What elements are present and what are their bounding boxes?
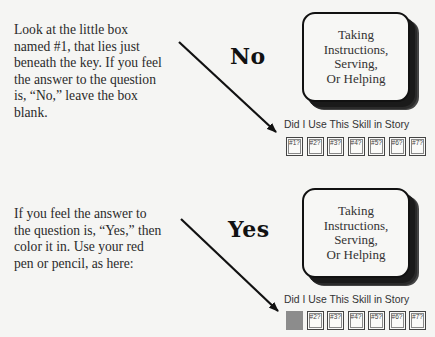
skill-line: Serving, — [324, 57, 389, 72]
story-box-2[interactable]: #2? — [307, 311, 324, 330]
skill-card-no: Taking Instructions, Serving, Or Helping — [302, 12, 410, 102]
story-box-4[interactable]: #4? — [348, 311, 365, 330]
story-box-1-filled[interactable] — [286, 311, 303, 330]
story-box-5[interactable]: #5? — [368, 137, 385, 156]
skill-line: Instructions, — [324, 219, 389, 234]
answer-label-no: No — [230, 43, 266, 69]
story-box-1[interactable]: #1? — [286, 137, 303, 156]
skill-line: Taking — [324, 28, 389, 43]
story-box-4[interactable]: #4? — [348, 137, 365, 156]
instruction-yes: If you feel the answer to the question i… — [14, 206, 164, 272]
answer-label-yes: Yes — [228, 216, 270, 242]
tracker-caption-yes: Did I Use This Skill in Story — [284, 294, 434, 305]
skill-line: Serving, — [324, 233, 389, 248]
story-box-6[interactable]: #6? — [389, 311, 406, 330]
story-box-3[interactable]: #3? — [327, 137, 344, 156]
story-box-7[interactable]: #7? — [409, 311, 426, 330]
story-checkboxes-yes: #2? #3? #4? #5? #6? #7? — [286, 311, 426, 330]
skill-line: Taking — [324, 204, 389, 219]
tracker-caption-no: Did I Use This Skill in Story — [284, 119, 434, 130]
story-box-5[interactable]: #5? — [368, 311, 385, 330]
story-checkboxes-no: #1? #2? #3? #4? #5? #6? #7? — [286, 137, 426, 156]
story-box-2[interactable]: #2? — [307, 137, 324, 156]
story-box-3[interactable]: #3? — [327, 311, 344, 330]
skill-line: Or Helping — [324, 248, 389, 263]
story-box-7[interactable]: #7? — [409, 137, 426, 156]
skill-card-yes: Taking Instructions, Serving, Or Helping — [302, 188, 410, 278]
skill-line: Or Helping — [324, 72, 389, 87]
instruction-no: Look at the little box named #1, that li… — [14, 22, 164, 122]
skill-line: Instructions, — [324, 43, 389, 58]
story-box-6[interactable]: #6? — [389, 137, 406, 156]
